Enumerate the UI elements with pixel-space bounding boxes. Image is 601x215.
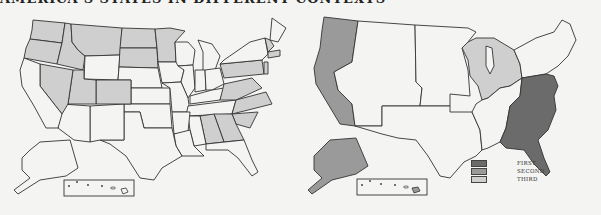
state-nd [120,28,157,48]
region-plains [415,25,476,106]
state-sd [119,48,158,68]
legend-label: THIRD [517,176,538,182]
state-oh [205,68,224,90]
right-us-map [300,0,601,215]
state-ks [131,88,170,104]
map-legend: FIRST SECOND THIRD [471,159,545,183]
region-northeast [514,20,576,78]
legend-item-first: FIRST [471,159,545,167]
state-wi [175,42,195,66]
state-ma-ct [268,50,280,58]
state-me [270,18,286,42]
legend-item-third: THIRD [471,175,545,183]
legend-swatch-second [471,168,487,175]
state-wy [84,55,120,80]
state-co [96,80,131,104]
legend-label: SECOND [517,168,545,174]
state-fl [206,140,258,176]
legend-swatch-third [471,176,487,183]
hawaii-inset [64,180,134,196]
legend-item-second: SECOND [471,167,545,175]
state-nm [90,104,124,142]
state-nj [264,62,268,74]
legend-label: FIRST [517,160,536,166]
legend-swatch-first [471,160,487,167]
left-us-map [0,0,300,215]
region-alaska [308,138,368,194]
state-in [195,70,206,92]
state-mi [198,40,220,72]
state-ny [220,38,268,64]
hawaii-inset [357,179,427,195]
